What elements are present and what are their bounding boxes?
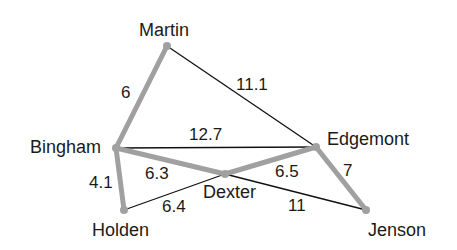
edge-weight-holden-dexter: 6.4 bbox=[162, 197, 186, 216]
edge-weight-martin-edgemont: 11.1 bbox=[236, 75, 268, 94]
node-bingham-dot bbox=[112, 144, 120, 152]
node-edgemont-dot bbox=[312, 143, 320, 151]
node-dexter-dot bbox=[221, 170, 229, 178]
edge-dexter-edgemont bbox=[225, 147, 316, 174]
node-label-dexter: Dexter bbox=[203, 182, 256, 202]
node-label-edgemont: Edgemont bbox=[327, 129, 409, 149]
node-jenson-dot bbox=[362, 206, 370, 214]
edge-weight-martin-bingham: 6 bbox=[121, 83, 130, 102]
node-martin-dot bbox=[163, 42, 171, 50]
edge-weight-dexter-edgemont: 6.5 bbox=[275, 162, 299, 181]
node-label-martin: Martin bbox=[139, 20, 189, 40]
node-holden-dot bbox=[120, 206, 128, 214]
node-label-bingham: Bingham bbox=[30, 137, 101, 157]
node-label-holden: Holden bbox=[92, 220, 149, 240]
edge-bingham-holden bbox=[116, 148, 124, 210]
edge-edgemont-jenson bbox=[316, 147, 366, 210]
edge-bingham-edgemont bbox=[116, 147, 316, 148]
weighted-graph-diagram: 611.112.76.34.16.46.5117MartinBinghamEdg… bbox=[0, 0, 457, 250]
node-label-jenson: Jenson bbox=[368, 220, 426, 240]
edge-weight-bingham-dexter: 6.3 bbox=[145, 164, 169, 183]
edge-weight-dexter-jenson: 11 bbox=[288, 196, 306, 215]
edge-bingham-dexter bbox=[116, 148, 225, 174]
edge-weight-bingham-edgemont: 12.7 bbox=[189, 125, 222, 144]
edge-weight-bingham-holden: 4.1 bbox=[89, 173, 113, 192]
edge-weight-edgemont-jenson: 7 bbox=[343, 161, 352, 180]
